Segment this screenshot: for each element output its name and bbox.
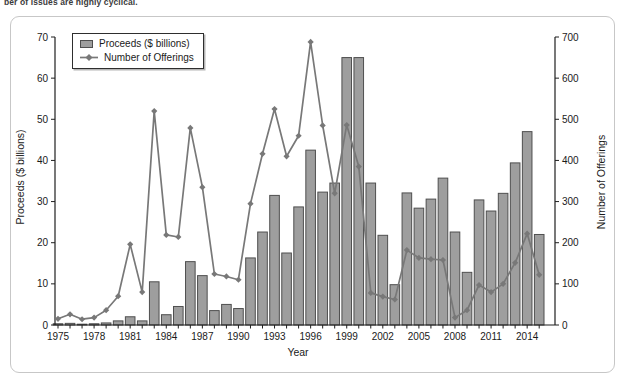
right-tick-label-100: 100 (562, 278, 579, 289)
offerings-marker-1992 (259, 151, 265, 157)
offerings-marker-1981 (127, 241, 133, 247)
offerings-marker-1989 (223, 273, 229, 279)
proceeds-bar-2009 (462, 272, 472, 325)
right-axis-title: Number of Offerings (595, 135, 607, 229)
right-tick-label-500: 500 (562, 114, 579, 125)
offerings-marker-1996 (308, 39, 314, 45)
x-tick-label-2005: 2005 (408, 331, 431, 342)
x-tick-label-1978: 1978 (83, 331, 106, 342)
right-tick-label-600: 600 (562, 73, 579, 84)
left-tick-label-70: 70 (37, 32, 49, 43)
offerings-marker-1987 (199, 184, 205, 190)
proceeds-bar-1992 (258, 232, 268, 325)
offerings-marker-1983 (151, 108, 157, 114)
left-tick-label-0: 0 (42, 320, 48, 331)
x-tick-label-2002: 2002 (372, 331, 395, 342)
proceeds-bar-1994 (282, 253, 292, 325)
offerings-marker-1977 (79, 316, 85, 322)
proceeds-bar-2003 (390, 285, 400, 325)
left-tick-label-30: 30 (37, 196, 49, 207)
offerings-marker-1976 (67, 311, 73, 317)
proceeds-bar-1997 (318, 192, 328, 325)
proceeds-bar-1991 (246, 258, 256, 325)
x-tick-label-2008: 2008 (444, 331, 467, 342)
proceeds-bar-2015 (534, 234, 544, 325)
proceeds-bar-1998 (330, 183, 340, 325)
proceeds-bar-2004 (402, 193, 412, 325)
proceeds-bar-1988 (210, 311, 220, 325)
offerings-marker-1975 (55, 316, 61, 322)
offerings-marker-1990 (235, 277, 241, 283)
proceeds-bar-swatch-icon (80, 40, 93, 48)
proceeds-bar-1993 (270, 195, 280, 325)
proceeds-bar-2005 (414, 208, 424, 325)
offerings-marker-1985 (175, 234, 181, 240)
proceeds-bar-2008 (450, 232, 460, 325)
legend: Proceeds ($ billions) Number of Offering… (72, 33, 204, 69)
x-tick-label-1984: 1984 (155, 331, 178, 342)
proceeds-bar-2012 (498, 193, 508, 325)
offerings-marker-1986 (187, 125, 193, 131)
offerings-marker-1993 (271, 106, 277, 112)
proceeds-bar-2007 (438, 178, 448, 325)
right-tick-label-300: 300 (562, 196, 579, 207)
proceeds-bar-2010 (474, 200, 484, 325)
proceeds-bar-1982 (137, 321, 147, 325)
proceeds-bar-2011 (486, 211, 496, 325)
x-tick-label-1975: 1975 (47, 331, 70, 342)
offerings-marker-1988 (211, 271, 217, 277)
proceeds-bar-1985 (174, 306, 184, 325)
offerings-line-swatch-icon (80, 53, 98, 62)
left-tick-label-20: 20 (37, 237, 49, 248)
x-tick-label-1981: 1981 (119, 331, 142, 342)
x-tick-label-1990: 1990 (227, 331, 250, 342)
legend-label-proceeds: Proceeds ($ billions) (99, 38, 190, 49)
x-tick-label-1987: 1987 (191, 331, 214, 342)
proceeds-bar-1983 (149, 282, 159, 325)
legend-item-proceeds: Proceeds ($ billions) (80, 37, 194, 50)
right-tick-label-0: 0 (562, 320, 568, 331)
proceeds-bar-1980 (113, 321, 123, 325)
proceeds-bar-1984 (161, 315, 171, 325)
offerings-marker-1984 (163, 232, 169, 238)
x-tick-label-1993: 1993 (263, 331, 286, 342)
left-tick-label-50: 50 (37, 114, 49, 125)
right-tick-label-200: 200 (562, 237, 579, 248)
proceeds-bar-1989 (222, 304, 232, 325)
x-tick-label-1996: 1996 (300, 331, 323, 342)
offerings-marker-1991 (247, 201, 253, 207)
proceeds-bar-1987 (198, 276, 208, 325)
legend-item-offerings: Number of Offerings (80, 51, 194, 64)
x-axis-title: Year (287, 346, 308, 358)
offerings-marker-1997 (320, 122, 326, 128)
figure-screenshot: ber of issues are highly cyclical. 01020… (0, 0, 626, 376)
proceeds-bar-1995 (294, 207, 304, 325)
proceeds-bar-1990 (234, 309, 244, 325)
x-tick-label-1999: 1999 (336, 331, 359, 342)
proceeds-bar-1996 (306, 150, 316, 325)
left-tick-label-10: 10 (37, 278, 49, 289)
left-tick-label-60: 60 (37, 73, 49, 84)
left-axis-title: Proceeds ($ billions) (14, 129, 26, 224)
proceeds-bar-2014 (522, 132, 532, 325)
right-tick-label-400: 400 (562, 155, 579, 166)
x-tick-label-2014: 2014 (516, 331, 539, 342)
proceeds-bar-2002 (378, 235, 388, 325)
proceeds-bar-1986 (186, 262, 196, 325)
proceeds-bar-1999 (342, 58, 352, 325)
legend-label-offerings: Number of Offerings (104, 52, 194, 63)
proceeds-bar-2000 (354, 58, 364, 325)
left-tick-label-40: 40 (37, 155, 49, 166)
x-tick-label-2011: 2011 (480, 331, 502, 342)
proceeds-bar-1981 (125, 317, 135, 325)
offerings-marker-1982 (139, 289, 145, 295)
right-tick-label-700: 700 (562, 32, 579, 43)
proceeds-bar-2013 (510, 163, 520, 325)
